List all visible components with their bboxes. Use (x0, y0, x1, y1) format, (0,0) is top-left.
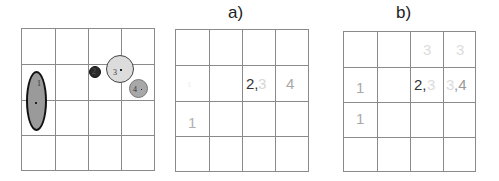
object-3-label: 3 (113, 68, 117, 77)
object-3-centroid (120, 69, 122, 71)
cell-label-r1c0: 1 (356, 80, 364, 95)
cell-label-r0c3: 3 (456, 42, 464, 57)
source-panel: 1 2 3 4 (21, 28, 155, 171)
cell-label-r1c2-faded: 3 (427, 77, 435, 92)
panel-a-grid (175, 29, 309, 172)
cell-label-r1c0: 1 (187, 77, 191, 92)
grid-line (344, 137, 475, 138)
object-1-label: 1 (37, 79, 41, 88)
panel-a: 1 2, 3 4 1 (175, 29, 309, 172)
grid-line (344, 67, 475, 68)
panel-b-title: b) (396, 3, 411, 23)
grid-line (176, 136, 308, 137)
cell-label-r2c0: 1 (356, 111, 364, 126)
object-4-circle (129, 79, 148, 98)
object-4-centroid (141, 89, 142, 90)
cell-label-r1c2-faded: 3 (258, 76, 266, 91)
object-2-label: 2 (92, 67, 96, 76)
cell-label-r1c3: ,4 (454, 77, 467, 92)
cell-label-r1c2: 2, (246, 76, 259, 91)
grid-line (176, 101, 308, 102)
panel-b: 3 3 1 2, 3 3 ,4 1 (343, 31, 476, 172)
cell-label-r0c2: 3 (423, 42, 431, 57)
grid-line (22, 135, 154, 136)
panel-a-title: a) (228, 3, 243, 23)
object-4-label: 4 (133, 85, 137, 94)
cell-label-r1c2: 2, (414, 77, 427, 92)
grid-line (22, 64, 154, 65)
grid-line (176, 65, 308, 66)
cell-label-r1c3: 4 (286, 76, 294, 91)
grid-line (344, 102, 475, 103)
object-1-centroid (35, 102, 37, 104)
cell-label-r2c0: 1 (188, 115, 196, 130)
